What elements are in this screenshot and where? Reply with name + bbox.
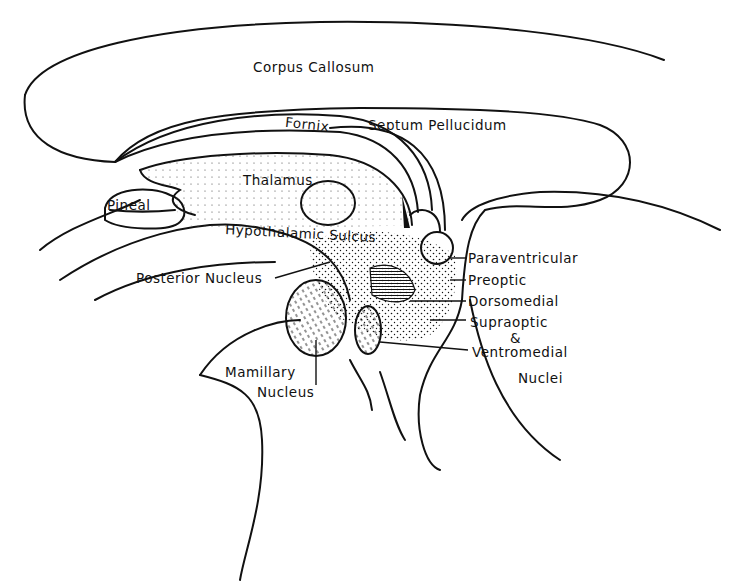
label-corpus-callosum: Corpus Callosum <box>253 61 374 75</box>
label-ventromedial: Ventromedial <box>472 346 568 360</box>
label-mamillary: Mamillary <box>225 366 296 380</box>
label-pineal: Pineal <box>107 199 150 213</box>
label-nucleus: Nucleus <box>257 386 314 400</box>
label-posterior-nucleus: Posterior Nucleus <box>136 272 262 286</box>
hypothalamus-diagram: Corpus Callosum Fornix Septum Pellucidum… <box>0 0 744 583</box>
label-thalamus: Thalamus <box>243 174 313 188</box>
label-paraventricular: Paraventricular <box>468 252 578 266</box>
label-dorsomedial: Dorsomedial <box>468 295 559 309</box>
label-preoptic: Preoptic <box>468 274 527 288</box>
brain-outline-drawing <box>0 0 744 583</box>
label-nuclei: Nuclei <box>518 372 563 386</box>
label-supraoptic: Supraoptic <box>470 316 548 330</box>
label-septum-pellucidum: Septum Pellucidum <box>368 119 507 133</box>
